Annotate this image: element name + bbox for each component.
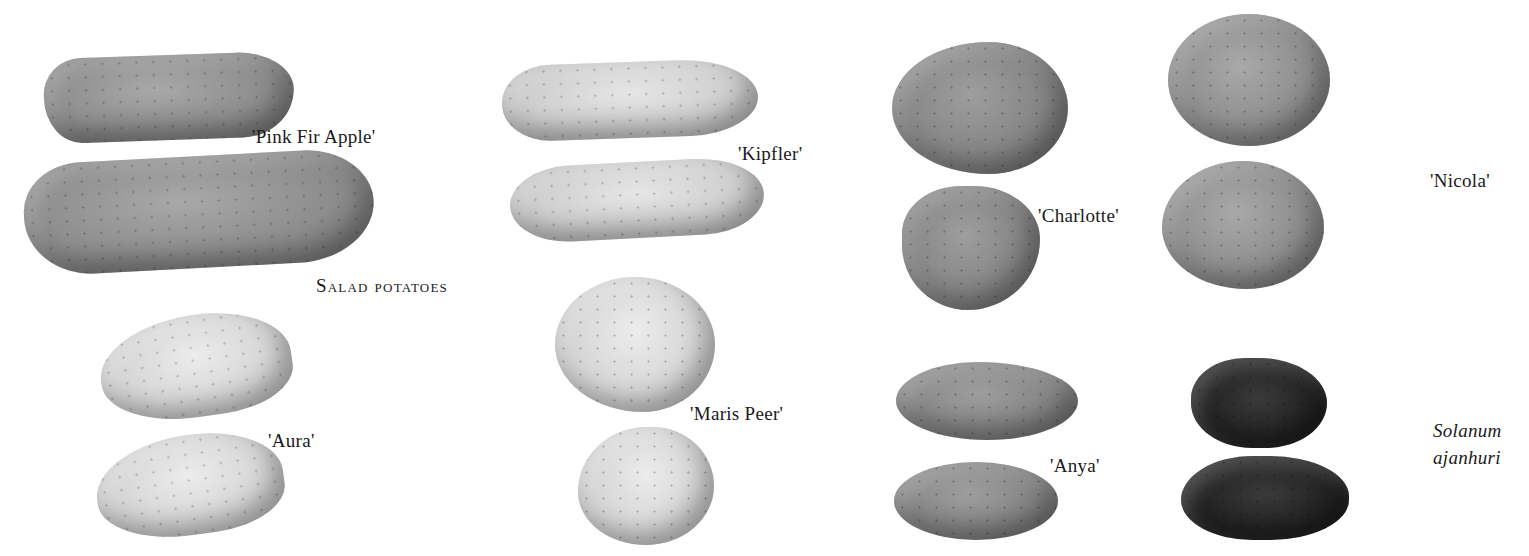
label-solanum-ajanhuri: Solanum ajanhuri (1433, 417, 1502, 471)
label-charlotte: 'Charlotte' (1038, 205, 1119, 227)
potato-kipfler-1 (501, 58, 759, 143)
potato-nicola-2 (1162, 161, 1324, 289)
label-nicola: 'Nicola' (1430, 170, 1490, 192)
potato-charlotte-1 (892, 42, 1068, 174)
potato-aura-2 (90, 422, 290, 547)
label-aura: 'Aura' (268, 430, 315, 452)
potato-anya-1 (896, 362, 1078, 440)
section-heading: Salad potatoes (316, 275, 448, 297)
potato-maris-peer-2 (578, 427, 714, 545)
label-maris-peer: 'Maris Peer' (690, 403, 783, 425)
label-pink-fir-apple: 'Pink Fir Apple' (252, 126, 376, 148)
potato-anya-2 (894, 462, 1058, 540)
potato-aura-1 (94, 302, 298, 430)
potato-nicola-1 (1168, 14, 1330, 146)
potato-solanum-ajanhuri-2 (1181, 456, 1349, 540)
potato-solanum-ajanhuri-1 (1191, 358, 1327, 448)
potato-kipfler-2 (508, 155, 766, 244)
label-solanum-line2: ajanhuri (1433, 444, 1502, 471)
potato-maris-peer-1 (555, 277, 715, 412)
label-anya: 'Anya' (1050, 455, 1100, 477)
label-kipfler: 'Kipfler' (738, 143, 802, 165)
label-solanum-line1: Solanum (1433, 417, 1502, 444)
potato-charlotte-2 (902, 186, 1040, 310)
potato-pink-fir-apple-2 (21, 147, 376, 277)
